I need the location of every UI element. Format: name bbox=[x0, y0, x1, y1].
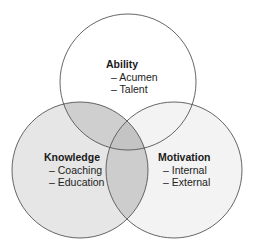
knowledge-title: Knowledge bbox=[44, 151, 104, 164]
ability-label: Ability – Acumen – Talent bbox=[106, 58, 158, 96]
knowledge-label: Knowledge – Coaching – Education bbox=[44, 151, 104, 189]
venn-diagram bbox=[0, 0, 257, 250]
motivation-title: Motivation bbox=[158, 151, 211, 164]
ability-title: Ability bbox=[106, 58, 158, 71]
ability-item: – Talent bbox=[106, 83, 158, 96]
knowledge-item: – Coaching bbox=[44, 164, 104, 177]
motivation-item: – Internal bbox=[158, 164, 211, 177]
ability-item: – Acumen bbox=[106, 71, 158, 84]
knowledge-item: – Education bbox=[44, 176, 104, 189]
motivation-label: Motivation – Internal – External bbox=[158, 151, 211, 189]
motivation-item: – External bbox=[158, 176, 211, 189]
